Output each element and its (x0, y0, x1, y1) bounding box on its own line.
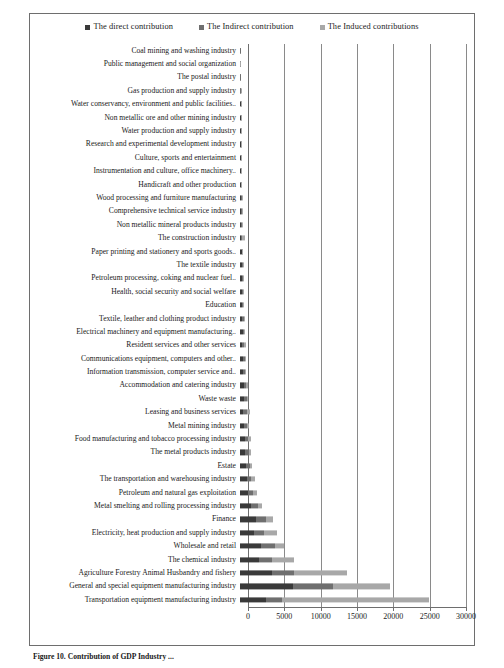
bar-row: Instrumentation and culture, office mach… (38, 165, 466, 178)
bar-cell (240, 419, 466, 432)
legend-item-indirect: The Indirect contribution (199, 22, 294, 32)
stacked-bar (240, 369, 246, 374)
bar-cell (240, 566, 466, 579)
bar-cell (240, 446, 466, 459)
bar-cell (240, 499, 466, 512)
stacked-bar (240, 410, 250, 415)
chart-figure-frame: The direct contributionThe Indirect cont… (29, 13, 475, 646)
category-label: Gas production and supply industry (38, 87, 240, 95)
category-label: Electrical machinery and equipment manuf… (38, 328, 240, 336)
bar-row: Resident services and other services (38, 339, 466, 352)
bar-cell (240, 352, 466, 365)
x-axis-tick (393, 607, 394, 611)
bar-segment-induced (333, 584, 390, 589)
category-label: The textile industry (38, 261, 240, 269)
bar-row: Food manufacturing and tobacco processin… (38, 432, 466, 445)
bar-row: Non metallic mineral products industry (38, 218, 466, 231)
x-axis-tick (466, 607, 467, 611)
bar-row: Public management and social organizatio… (38, 57, 466, 70)
bar-row: The metal products industry (38, 446, 466, 459)
bar-segment-indirect (256, 517, 267, 522)
category-label: The chemical industry (38, 556, 240, 564)
bar-segment-induced (250, 463, 253, 468)
bar-row: Health, social security and social welfa… (38, 285, 466, 298)
stacked-bar (240, 303, 244, 308)
stacked-bar (240, 209, 242, 214)
category-label: Resident services and other services (38, 341, 240, 349)
category-label: The metal products industry (38, 448, 240, 456)
category-label: Transportation equipment manufacturing i… (38, 596, 240, 604)
bar-row: Metal smelting and rolling processing in… (38, 499, 466, 512)
stacked-bar (240, 316, 245, 321)
category-label: Coal mining and washing industry (38, 47, 240, 55)
category-label: The transportation and warehousing indus… (38, 475, 240, 483)
bar-segment-induced (243, 289, 244, 294)
bar-segment-induced (249, 450, 251, 455)
category-label: Public management and social organizatio… (38, 60, 240, 68)
bar-segment-indirect (261, 544, 275, 549)
stacked-bar (240, 503, 262, 508)
bar-segment-direct (240, 477, 247, 482)
bar-cell (240, 231, 466, 244)
category-label: Health, social security and social welfa… (38, 288, 240, 296)
bar-segment-induced (275, 544, 284, 549)
bar-row: Research and experimental development in… (38, 138, 466, 151)
category-label: Handicraft and other production (38, 181, 240, 189)
bar-cell (240, 98, 466, 111)
bar-row: Petroleum and natural gas exploitation (38, 486, 466, 499)
bar-row: Waste waste (38, 392, 466, 405)
stacked-bar (240, 262, 243, 267)
bar-row: General and special equipment manufactur… (38, 580, 466, 593)
bar-segment-direct (240, 530, 254, 535)
bar-cell (240, 312, 466, 325)
x-axis-tick (357, 607, 358, 611)
legend-label: The Indirect contribution (207, 22, 294, 32)
legend-label: The Induced contributions (328, 22, 419, 32)
stacked-bar (240, 343, 246, 348)
chart-legend: The direct contributionThe Indirect cont… (30, 22, 474, 32)
bar-row: Electrical machinery and equipment manuf… (38, 325, 466, 338)
bar-row: Non metallic ore and other mining indust… (38, 111, 466, 124)
bar-cell (240, 339, 466, 352)
bar-row: The textile industry (38, 258, 466, 271)
bar-cell (240, 406, 466, 419)
stacked-bar (240, 182, 242, 187)
bar-segment-induced (245, 356, 246, 361)
bar-segment-indirect (272, 570, 294, 575)
x-axis-tick-label: 10000 (311, 612, 331, 621)
bar-cell (240, 473, 466, 486)
stacked-bar (240, 463, 252, 468)
category-label: The postal industry (38, 73, 240, 81)
stacked-bar (240, 544, 284, 549)
bar-row: The chemical industry (38, 553, 466, 566)
category-label: Agriculture Forestry Animal Husbandry an… (38, 569, 240, 577)
stacked-bar (240, 597, 429, 602)
stacked-bar (240, 383, 248, 388)
bar-cell (240, 151, 466, 164)
bar-cell (240, 165, 466, 178)
category-label: Metal mining industry (38, 422, 240, 430)
bar-cell (240, 365, 466, 378)
stacked-bar (240, 557, 294, 562)
bar-segment-direct (240, 503, 251, 508)
category-label: Electricity, heat production and supply … (38, 529, 240, 537)
plot-area: Coal mining and washing industryPublic m… (38, 44, 466, 635)
bar-cell (240, 191, 466, 204)
bar-cell (240, 205, 466, 218)
x-axis-tick (284, 607, 285, 611)
bar-cell (240, 379, 466, 392)
bar-segment-induced (247, 410, 250, 415)
category-label: Comprehensive technical service industry (38, 207, 240, 215)
bar-segment-direct (240, 597, 266, 602)
bar-row: Transportation equipment manufacturing i… (38, 593, 466, 606)
bar-cell (240, 84, 466, 97)
category-label: Non metallic ore and other mining indust… (38, 114, 240, 122)
bar-row: Comprehensive technical service industry (38, 205, 466, 218)
category-label: Culture, sports and entertainment (38, 154, 240, 162)
bar-row: Electricity, heat production and supply … (38, 526, 466, 539)
bar-segment-induced (244, 316, 245, 321)
stacked-bar (240, 490, 257, 495)
bar-segment-induced (245, 369, 246, 374)
category-label: Education (38, 301, 240, 309)
bar-row: Communications equipment, computers and … (38, 352, 466, 365)
